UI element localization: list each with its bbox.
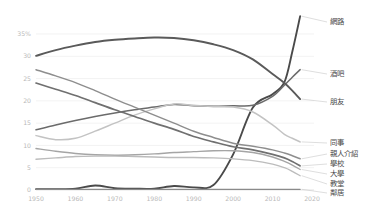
series-line-7 (36, 156, 300, 176)
x-axis-tick-label: 1960 (68, 195, 84, 202)
label-leader-6 (302, 170, 327, 175)
label-leader-0 (302, 16, 327, 22)
gridlines (36, 34, 314, 190)
label-leader-3 (302, 142, 327, 143)
label-leader-4 (302, 154, 327, 159)
series-label-2: 朋友 (330, 97, 345, 106)
x-axis-tick-label: 1980 (146, 195, 162, 202)
x-axis-tick-label: 1950 (28, 195, 44, 202)
series-label-5: 學校 (330, 159, 345, 168)
y-axis-tick-label: 25 (23, 75, 31, 82)
x-axis-tick-label: 1990 (186, 195, 202, 202)
series-label-3: 同事 (330, 138, 345, 147)
label-leader-1 (302, 70, 327, 74)
x-axis-tick-labels: 19501960197019801990200020102020 (28, 195, 320, 202)
series-labels: 網路酒吧朋友同事親人介紹學校大學教堂鄰居 (330, 17, 358, 197)
label-leader-5 (302, 164, 327, 166)
y-axis-tick-label: 35% (17, 30, 31, 37)
y-axis-tick-label: 20 (23, 97, 31, 104)
y-axis-tick-label: 0 (27, 186, 31, 193)
series-label-0: 網路 (330, 17, 345, 26)
y-axis-tick-label: 15 (23, 119, 31, 126)
series-label-8: 鄰居 (330, 188, 344, 197)
series-label-6: 大學 (330, 169, 344, 178)
series-label-4: 親人介紹 (330, 149, 358, 158)
line-chart: 05101520253035% 195019601970198019902000… (0, 0, 373, 218)
series-lines (36, 16, 300, 189)
x-axis-tick-label: 1970 (107, 195, 123, 202)
series-label-7: 教堂 (330, 179, 344, 188)
x-axis-tick-label: 2020 (304, 195, 320, 202)
series-line-2 (36, 38, 300, 100)
y-axis-tick-label: 10 (23, 142, 31, 149)
y-axis-tick-label: 30 (23, 52, 31, 59)
x-axis-tick-label: 2010 (265, 195, 281, 202)
y-axis-tick-label: 5 (27, 164, 31, 171)
series-label-1: 酒吧 (330, 69, 345, 78)
label-leader-8 (302, 189, 327, 193)
series-label-leaders (302, 16, 327, 193)
x-axis-tick-label: 2000 (225, 195, 241, 202)
y-axis-tick-labels: 05101520253035% (17, 30, 31, 193)
label-leader-7 (302, 176, 327, 184)
chart-container: 05101520253035% 195019601970198019902000… (0, 0, 373, 218)
